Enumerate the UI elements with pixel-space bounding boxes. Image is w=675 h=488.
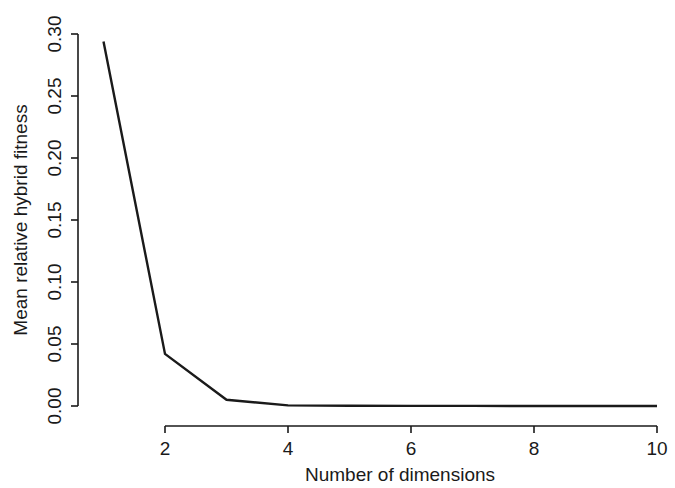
y-tick-label-2: 0.10 — [44, 264, 65, 301]
plot-background — [0, 0, 675, 488]
x-axis-title: Number of dimensions — [305, 464, 495, 485]
y-tick-label-0: 0.00 — [44, 388, 65, 425]
y-tick-label-1: 0.05 — [44, 326, 65, 363]
y-tick-label-3: 0.15 — [44, 202, 65, 239]
x-tick-label-4: 10 — [646, 438, 667, 459]
y-tick-label-4: 0.20 — [44, 140, 65, 177]
y-tick-label-6: 0.30 — [44, 16, 65, 53]
x-tick-label-0: 2 — [160, 438, 171, 459]
x-tick-label-1: 4 — [283, 438, 294, 459]
figure-canvas: (averaging over all replicates) 0.00 0.0… — [0, 0, 675, 488]
x-tick-label-2: 6 — [406, 438, 417, 459]
y-axis-title: Mean relative hybrid fitness — [10, 104, 31, 335]
x-tick-label-3: 8 — [529, 438, 540, 459]
y-tick-label-5: 0.25 — [44, 78, 65, 115]
line-chart: 0.00 0.05 0.10 0.15 0.20 0.25 0.30 Mean … — [0, 0, 675, 488]
